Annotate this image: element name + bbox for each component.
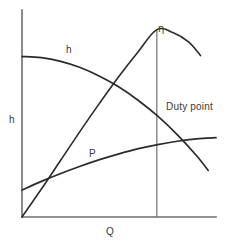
power-curve-label: P (89, 149, 96, 159)
pump-performance-chart: h Q h P η Duty point (0, 0, 228, 245)
duty-point-label: Duty point (166, 102, 213, 112)
x-axis-label: Q (106, 227, 114, 237)
y-axis-label: h (9, 115, 15, 125)
chart-canvas (0, 0, 228, 245)
head-curve-label: h (66, 45, 72, 55)
efficiency-curve (22, 29, 200, 217)
head-curve-stroke (22, 57, 208, 171)
efficiency-curve-label: η (158, 24, 165, 34)
